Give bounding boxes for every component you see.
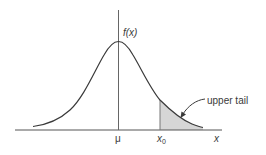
fx-label: f(x): [123, 27, 137, 38]
x-axis-label: x: [213, 133, 220, 144]
diagram-canvas: f(x) μ x0 x upper tail: [0, 0, 266, 155]
upper-tail-callout-label: upper tail: [207, 95, 248, 106]
callout-arrowhead-icon: [181, 112, 187, 119]
callout-arrow-line: [183, 99, 205, 114]
normal-distribution-diagram: f(x) μ x0 x upper tail: [0, 0, 266, 155]
x0-label-subscript: 0: [162, 138, 166, 145]
x0-label: x0: [156, 133, 166, 145]
mean-label: μ: [115, 133, 121, 144]
